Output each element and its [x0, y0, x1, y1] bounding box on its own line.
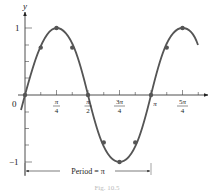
svg-text:π: π: [153, 100, 157, 108]
x-tick-label-3pi-4: 3π 4: [114, 98, 125, 115]
y-tick-label-1: 1: [15, 23, 20, 33]
period-annotation: Period = π: [25, 163, 151, 176]
x-tick-label-pi-4: π 4: [53, 98, 60, 115]
x-tick-label-pi: π: [153, 100, 157, 108]
x-ticks: [41, 90, 199, 95]
svg-text:4: 4: [181, 107, 185, 115]
sine-chart: y 1 −1 0 π 4 π 2 3π 4 π 5π 4 Period = π: [0, 0, 214, 195]
period-label: Period = π: [71, 167, 104, 176]
x-tick-label-5pi-4: 5π 4: [177, 98, 188, 115]
figure-caption: Fig. 10.5: [0, 184, 214, 192]
svg-text:3π: 3π: [116, 98, 124, 106]
y-tick-label-neg1: −1: [9, 157, 19, 167]
svg-text:4: 4: [118, 107, 122, 115]
svg-text:4: 4: [55, 107, 59, 115]
svg-text:2: 2: [86, 107, 90, 115]
origin-label: 0: [12, 99, 17, 109]
svg-text:π: π: [86, 98, 90, 106]
svg-text:π: π: [55, 98, 59, 106]
svg-text:5π: 5π: [179, 98, 187, 106]
y-axis-label: y: [22, 1, 27, 11]
